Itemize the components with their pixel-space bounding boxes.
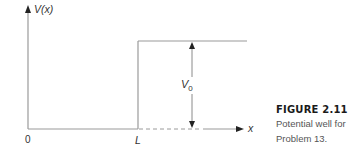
x-axis-label: x xyxy=(248,122,253,134)
caption-line-2: Problem 13. xyxy=(276,131,358,146)
height-arrowhead-top xyxy=(189,42,195,49)
y-axis-arrowhead xyxy=(25,5,31,13)
barrier-height-label: V0 xyxy=(181,77,193,94)
origin-label: 0 xyxy=(25,134,31,145)
caption-line-1: Potential well for xyxy=(276,116,358,131)
figure-caption: FIGURE 2.11 Potential well for Problem 1… xyxy=(276,104,358,146)
y-label-v: V xyxy=(34,3,41,15)
x-axis-arrowhead xyxy=(236,126,244,132)
figure-title: FIGURE 2.11 xyxy=(276,104,358,115)
y-axis-label: V(x) xyxy=(34,3,53,15)
v0-sub: 0 xyxy=(188,84,192,93)
height-arrowhead-bottom xyxy=(189,121,195,128)
y-label-arg: (x) xyxy=(41,3,53,15)
step-position-label: L xyxy=(135,134,141,146)
